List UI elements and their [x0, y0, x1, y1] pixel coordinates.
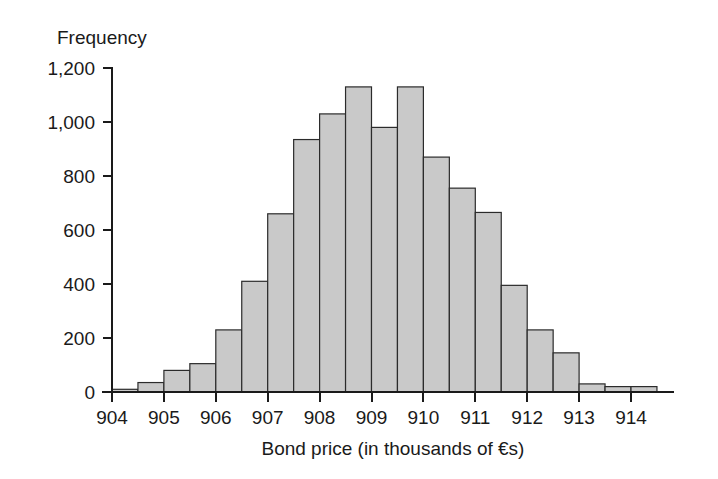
- histogram-bar: [501, 285, 527, 392]
- y-axis-tick-label: 400: [63, 274, 95, 295]
- histogram-bar: [553, 353, 579, 392]
- histogram-bar: [242, 281, 268, 392]
- y-axis-tick-label: 0: [84, 382, 95, 403]
- x-axis-tick-label: 911: [460, 407, 490, 428]
- x-axis-tick-label: 913: [563, 407, 595, 428]
- histogram-bar: [397, 87, 423, 392]
- x-axis-tick-label: 907: [252, 407, 284, 428]
- x-axis-tick-label: 904: [96, 407, 128, 428]
- histogram-bar: [190, 364, 216, 392]
- x-axis-tick-label: 908: [304, 407, 336, 428]
- histogram-bar: [579, 384, 605, 392]
- histogram-bar: [294, 140, 320, 392]
- histogram-bar: [138, 383, 164, 392]
- y-axis-title: Frequency: [57, 27, 147, 48]
- histogram-bar: [423, 157, 449, 392]
- y-axis-tick-label: 1,200: [47, 58, 95, 79]
- x-axis-tick-label: 910: [408, 407, 440, 428]
- histogram-bar: [372, 127, 398, 392]
- x-axis-tick-label: 912: [511, 407, 543, 428]
- histogram-bar: [164, 370, 190, 392]
- histogram-bar: [268, 214, 294, 392]
- histogram-bar: [320, 114, 346, 392]
- y-axis-tick-label: 800: [63, 166, 95, 187]
- histogram-bar: [527, 330, 553, 392]
- x-axis-tick-label: 914: [615, 407, 647, 428]
- y-axis-tick-label: 1,000: [47, 112, 95, 133]
- bars-group: [112, 87, 657, 392]
- histogram-bar: [216, 330, 242, 392]
- histogram-figure: 02004006008001,0001,20090490590690790890…: [0, 0, 718, 479]
- histogram-bar: [475, 212, 501, 392]
- histogram-plot: 02004006008001,0001,20090490590690790890…: [0, 0, 718, 479]
- y-axis-tick-label: 200: [63, 328, 95, 349]
- x-axis-tick-label: 906: [200, 407, 232, 428]
- y-axis-tick-label: 600: [63, 220, 95, 241]
- histogram-bar: [449, 188, 475, 392]
- x-axis-title: Bond price (in thousands of €s): [261, 438, 524, 459]
- x-axis-tick-label: 905: [148, 407, 180, 428]
- histogram-bar: [346, 87, 372, 392]
- x-axis-tick-label: 909: [356, 407, 388, 428]
